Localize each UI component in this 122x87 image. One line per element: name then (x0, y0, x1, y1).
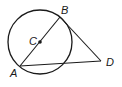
label-c: C (29, 35, 37, 47)
label-b: B (61, 4, 68, 16)
label-d: D (106, 56, 114, 68)
geometry-diagram: B C A D (0, 0, 122, 87)
label-a: A (9, 67, 17, 79)
segment-ad (20, 61, 101, 66)
center-point-c (38, 40, 42, 44)
segment-bd (60, 17, 101, 61)
